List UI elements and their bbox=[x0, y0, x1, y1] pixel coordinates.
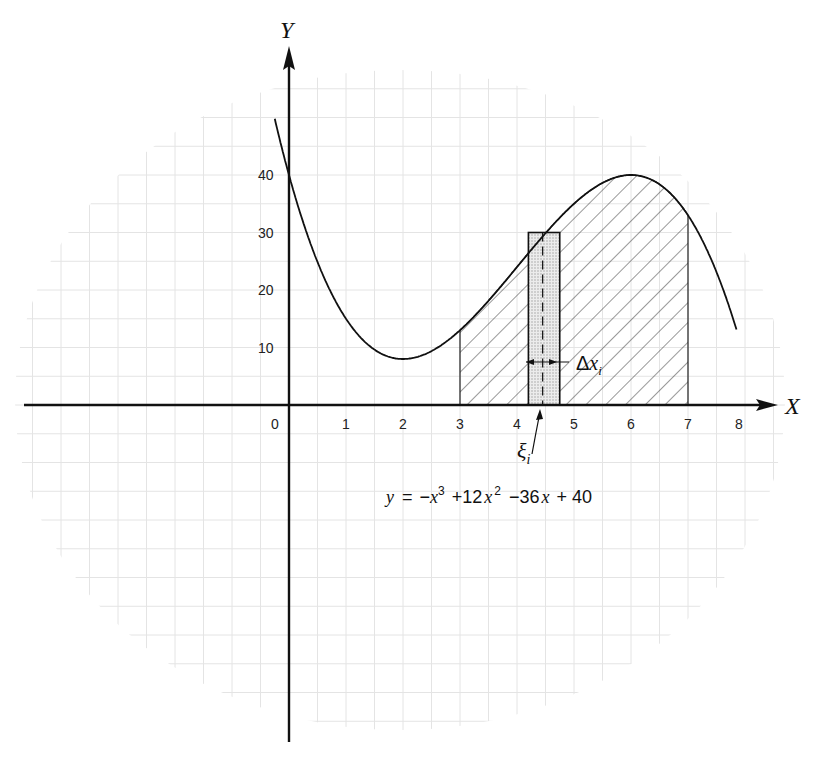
x-tick-label: 3 bbox=[456, 416, 464, 432]
x-tick-label: 7 bbox=[684, 416, 692, 432]
riemann-rectangle bbox=[528, 233, 559, 406]
y-tick-label: 40 bbox=[258, 167, 274, 183]
x-tick-label: 2 bbox=[399, 416, 407, 432]
y-tick-label: 20 bbox=[258, 282, 274, 298]
y-axis-label: Y bbox=[280, 17, 296, 43]
y-tick-label: 10 bbox=[258, 340, 274, 356]
svg-text:ξi: ξi bbox=[517, 438, 530, 467]
delta-symbol: Δ bbox=[576, 352, 589, 374]
x-axis-label: X bbox=[784, 393, 801, 419]
x-tick-labels: 012345678 bbox=[271, 416, 743, 432]
delta-subscript: i bbox=[598, 363, 602, 378]
riemann-sum-figure: 012345678 10203040 X Y Δxi ξi y = −x3 +1… bbox=[0, 0, 823, 764]
y-tick-label: 30 bbox=[258, 225, 274, 241]
arrowhead-up-icon bbox=[536, 409, 543, 420]
xi-annotation: ξi bbox=[517, 409, 543, 467]
background-grid bbox=[0, 0, 823, 764]
delta-x-symbol: x bbox=[588, 352, 598, 374]
x-tick-label: 8 bbox=[735, 416, 743, 432]
x-tick-label: 1 bbox=[342, 416, 350, 432]
x-tick-label: 6 bbox=[627, 416, 635, 432]
xi-subscript: i bbox=[526, 452, 530, 467]
x-tick-label: 5 bbox=[570, 416, 578, 432]
x-tick-label: 4 bbox=[513, 416, 521, 432]
x-tick-label: 0 bbox=[271, 416, 279, 432]
